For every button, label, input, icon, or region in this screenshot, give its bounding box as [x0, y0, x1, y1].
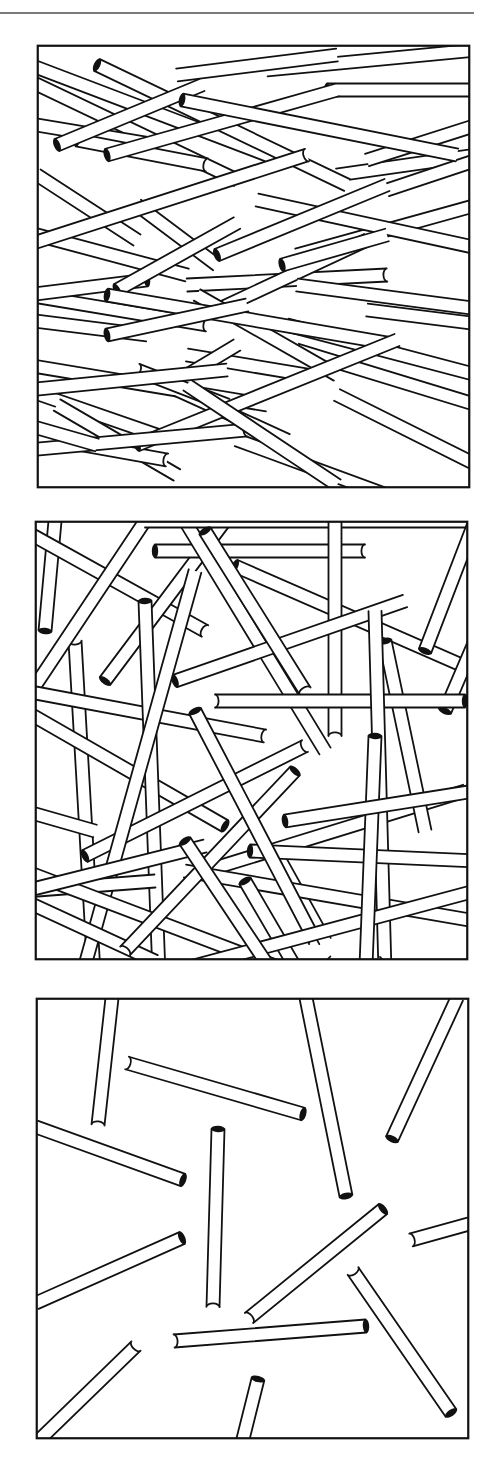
rod-end-dark-icon	[152, 544, 158, 558]
panel-sparse-rods: Low density rod packing	[36, 998, 469, 1439]
rod-end-open-icon	[383, 269, 387, 282]
rod-end-open-icon	[473, 199, 479, 212]
rod-end-open-icon	[207, 1303, 220, 1307]
panel-medium-rods: Medium density rod packing	[35, 521, 468, 960]
rod-drawing	[35, 521, 468, 960]
top-rule-line	[0, 12, 474, 14]
rod-end-open-icon	[329, 732, 342, 736]
panel-dense-rods: High density rod packing	[37, 45, 470, 488]
rod-end-open-icon	[215, 695, 219, 708]
rod-drawing	[37, 45, 470, 488]
rod-end-open-icon	[361, 545, 365, 558]
rod	[215, 694, 468, 708]
rod	[324, 83, 477, 97]
rod-drawing	[36, 998, 469, 1439]
